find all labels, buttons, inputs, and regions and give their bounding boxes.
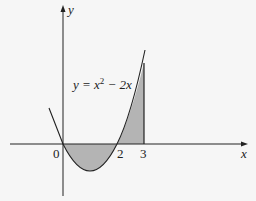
function-label-eq: = x [79,77,100,92]
y-axis-arrow-icon [61,5,66,12]
tick-origin: 0 [53,147,60,160]
graph-figure: y x 0 2 3 y = x2 − 2x [0,0,256,201]
graph-canvas [0,0,256,201]
tick-two: 2 [117,147,124,160]
x-axis-label: x [241,147,247,160]
y-axis-label: y [68,3,74,16]
shaded-region-above [117,63,144,144]
function-label: y = x2 − 2x [73,77,132,91]
tick-three: 3 [140,147,147,160]
function-label-rest: − 2x [104,77,132,92]
